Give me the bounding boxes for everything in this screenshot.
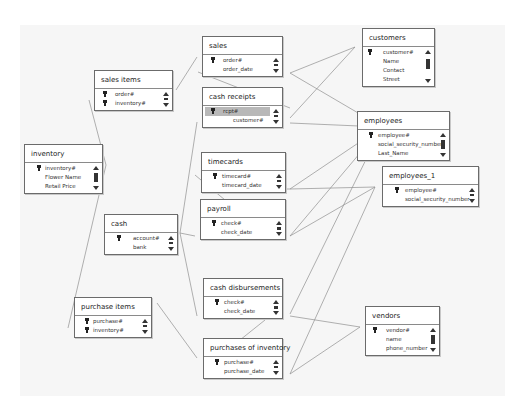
scroll-up-icon[interactable]: [273, 109, 279, 113]
field-row[interactable]: timecard#: [202, 172, 285, 181]
field-row[interactable]: name: [366, 335, 439, 344]
field-row[interactable]: purchase#: [75, 317, 151, 326]
scroll-thumb[interactable]: [274, 64, 278, 66]
field-row[interactable]: Name: [363, 57, 434, 66]
scrollbar[interactable]: [469, 187, 475, 204]
scroll-thumb[interactable]: [277, 227, 281, 230]
scroll-up-icon[interactable]: [163, 92, 169, 96]
scroll-thumb[interactable]: [143, 325, 147, 327]
field-row[interactable]: employee#: [358, 131, 449, 140]
scrollbar[interactable]: [425, 49, 431, 84]
scroll-up-icon[interactable]: [93, 166, 99, 170]
scroll-up-icon[interactable]: [276, 174, 282, 178]
scroll-down-icon[interactable]: [273, 120, 279, 124]
field-row[interactable]: Street: [363, 75, 434, 84]
table-cash-disbursements[interactable]: cash disbursements check# check_date: [203, 278, 283, 319]
scroll-up-icon[interactable]: [168, 236, 174, 240]
scrollbar[interactable]: [163, 91, 169, 108]
field-row[interactable]: timecard_date: [202, 181, 285, 190]
field-row[interactable]: inventory#: [95, 99, 172, 108]
scroll-down-icon[interactable]: [273, 371, 279, 375]
field-row[interactable]: Last_Name: [358, 149, 449, 158]
scrollbar[interactable]: [276, 220, 282, 237]
scroll-thumb[interactable]: [274, 366, 278, 368]
scroll-down-icon[interactable]: [93, 186, 99, 190]
scroll-down-icon[interactable]: [142, 330, 148, 334]
field-row[interactable]: bank: [105, 243, 177, 252]
field-row[interactable]: Contact: [363, 66, 434, 75]
field-row-selected[interactable]: rcpt#: [205, 107, 270, 116]
table-sales-items[interactable]: sales items order# inventory#: [94, 70, 173, 111]
scroll-thumb[interactable]: [94, 173, 98, 182]
scroll-down-icon[interactable]: [163, 103, 169, 107]
field-row[interactable]: inventory#: [75, 326, 151, 335]
scroll-thumb[interactable]: [426, 59, 430, 69]
scroll-thumb[interactable]: [441, 140, 445, 149]
scroll-down-icon[interactable]: [430, 348, 436, 352]
scrollbar[interactable]: [273, 299, 279, 316]
scroll-down-icon[interactable]: [273, 69, 279, 73]
scrollbar[interactable]: [440, 132, 446, 158]
field-row[interactable]: social_security_number: [383, 195, 478, 204]
scroll-thumb[interactable]: [470, 194, 474, 196]
field-row[interactable]: vendor#: [366, 326, 439, 335]
field-row[interactable]: check_date: [204, 307, 282, 316]
table-vendors[interactable]: vendors vendor# name phone_number: [365, 306, 440, 356]
field-row[interactable]: purchase#: [204, 358, 282, 367]
scroll-up-icon[interactable]: [469, 188, 475, 192]
field-row[interactable]: inventory#: [25, 164, 102, 173]
table-sales[interactable]: sales order# order_date: [202, 36, 283, 77]
scroll-down-icon[interactable]: [440, 153, 446, 157]
table-purchase-items[interactable]: purchase items purchase# inventory#: [74, 297, 152, 338]
scroll-down-icon[interactable]: [273, 311, 279, 315]
field-row[interactable]: customer#: [363, 48, 434, 57]
field-row[interactable]: employee#: [383, 186, 478, 195]
scroll-thumb[interactable]: [431, 335, 435, 344]
scroll-up-icon[interactable]: [276, 221, 282, 225]
field-row[interactable]: Retail Price: [25, 182, 102, 191]
scroll-down-icon[interactable]: [425, 79, 431, 83]
field-row[interactable]: check#: [201, 219, 285, 228]
scroll-down-icon[interactable]: [469, 199, 475, 203]
table-inventory[interactable]: inventory inventory# Flower Name Retail …: [24, 144, 103, 194]
field-row[interactable]: check_date: [201, 228, 285, 237]
table-customers[interactable]: customers customer# Name Contact Street: [362, 28, 435, 87]
table-purchases-of-inventory[interactable]: purchases of inventory purchase# purchas…: [203, 338, 283, 379]
scrollbar[interactable]: [430, 327, 436, 353]
table-cash[interactable]: cash account# bank: [104, 214, 178, 255]
scrollbar[interactable]: [273, 108, 279, 125]
scroll-thumb[interactable]: [164, 98, 168, 100]
scroll-down-icon[interactable]: [168, 247, 174, 251]
table-employees[interactable]: employees employee# social_security_numb…: [357, 111, 450, 161]
scroll-up-icon[interactable]: [430, 328, 436, 332]
field-row[interactable]: order#: [95, 90, 172, 99]
scrollbar[interactable]: [276, 173, 282, 190]
table-cash-receipts[interactable]: cash receipts rcpt# customer#: [202, 87, 283, 128]
scrollbar[interactable]: [273, 359, 279, 376]
scrollbar[interactable]: [168, 235, 174, 252]
scroll-up-icon[interactable]: [142, 319, 148, 323]
field-row[interactable]: Flower Name: [25, 173, 102, 182]
scrollbar[interactable]: [142, 318, 148, 335]
scroll-thumb[interactable]: [274, 306, 278, 309]
scroll-down-icon[interactable]: [276, 232, 282, 236]
scroll-up-icon[interactable]: [273, 58, 279, 62]
table-timecards[interactable]: timecards timecard# timecard_date: [201, 152, 286, 193]
scroll-thumb[interactable]: [169, 242, 173, 244]
field-row[interactable]: purchase_date: [204, 367, 282, 376]
field-row[interactable]: order_date: [203, 65, 282, 74]
scroll-up-icon[interactable]: [425, 50, 431, 54]
scroll-thumb[interactable]: [274, 115, 278, 117]
scroll-up-icon[interactable]: [273, 300, 279, 304]
table-payroll[interactable]: payroll check# check_date: [200, 199, 286, 240]
scroll-down-icon[interactable]: [276, 185, 282, 189]
field-row[interactable]: customer#: [203, 116, 282, 125]
scrollbar[interactable]: [93, 165, 99, 191]
scroll-up-icon[interactable]: [273, 360, 279, 364]
field-row[interactable]: account#: [105, 234, 177, 243]
table-employees-1[interactable]: employees_1 employee# social_security_nu…: [382, 166, 479, 207]
scroll-up-icon[interactable]: [440, 133, 446, 137]
scrollbar[interactable]: [273, 57, 279, 74]
scroll-thumb[interactable]: [277, 180, 281, 182]
field-row[interactable]: check#: [204, 298, 282, 307]
